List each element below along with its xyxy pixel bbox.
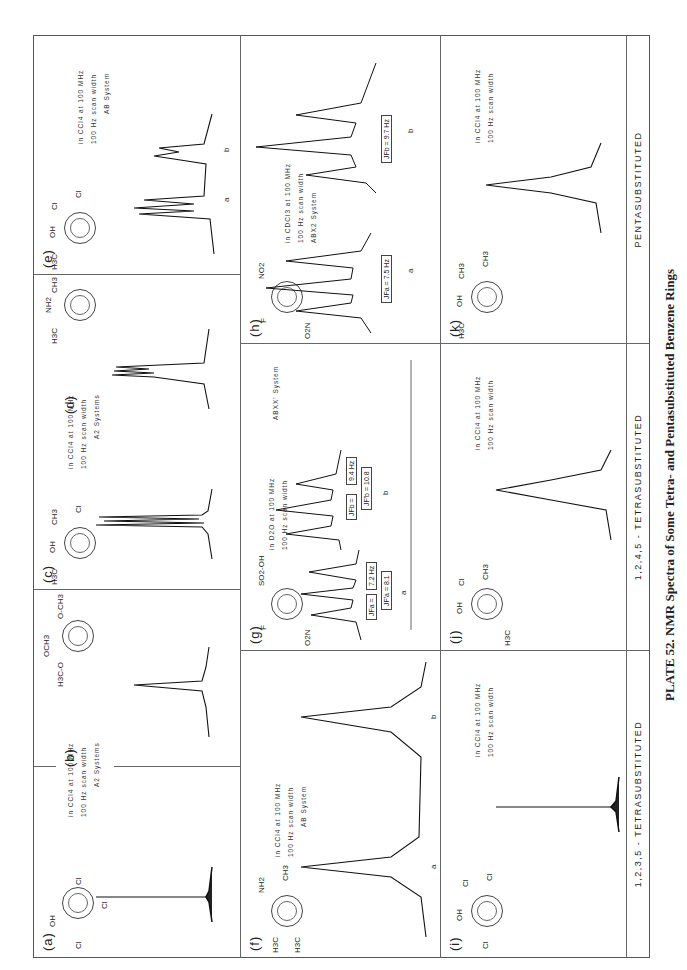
coupling-label: JFb = [346,494,357,520]
panel-k: (k) OH CH3 CH3 H3C in CCl4 at 100 MHz 10… [441,36,629,343]
spectrum-k [441,36,629,343]
peak-label-b: b [222,148,231,152]
row-middle: (f) H3C H3C NH2 CH3 in CCl4 at 100 MHz 1… [241,36,441,957]
section-label: 1,2,4,5 - TETRASUBSTITUTED [627,343,649,650]
coupling-label: JFa = 7.5 Hz [381,255,392,303]
section-label: PENTASUBSTITUTED [627,36,649,343]
plate-caption: PLATE 52. NMR Spectra of Some Tetra- and… [662,0,678,970]
spectrum-j [441,343,629,650]
row-top: (a) OH Cl Cl Cl in CCl4 at 100 MHz 100 H… [34,36,241,957]
condition-line: in CCl4 at 100 MHz [471,683,484,757]
plate-page: (a) OH Cl Cl Cl in CCl4 at 100 MHz 100 H… [0,0,687,970]
conditions-i: in CCl4 at 100 MHz 100 Hz scan width [471,683,497,757]
row-bottom: (i) OH Cl Cl Cl in CCl4 at 100 MHz 100 H… [441,36,629,957]
section-label: 1,2,3,5 - TETRASUBSTITUTED [627,650,649,957]
condition-line: 100 Hz scan width [484,376,497,450]
peak-label-a: a [429,865,438,869]
panel-e: (e) H3C OH Cl Cl in CCl4 at 100 MHz 100 … [34,36,240,274]
condition-line: in CCl4 at 100 MHz [471,376,484,450]
panel-g: (g) F SO2-OH O2N in D2O at 100 MHz 100 H… [241,343,440,650]
condition-line: in CCl4 at 100 MHz [471,69,484,143]
conditions-j: in CCl4 at 100 MHz 100 Hz scan width [471,376,497,450]
coupling-label: JFa = [366,594,377,620]
condition-line: 100 Hz scan width [484,683,497,757]
panel-cd: (c) H3C OH CH3 Cl in CCl4 at 100 MHz 100… [34,274,240,589]
spectrum-h [241,36,441,343]
peak-label-b: b [429,715,438,719]
peak-label-a: a [399,591,408,595]
divider [34,766,56,767]
spectrum-i [441,650,629,957]
coupling-label: JF'b = 10.8 [361,467,372,510]
panel-ab: (a) OH Cl Cl Cl in CCl4 at 100 MHz 100 H… [34,589,240,957]
coupling-label: JFb = 9.7 Hz [381,115,392,163]
coupling-label: JF'a = 8.1 [381,571,392,610]
peak-label-b: b [406,129,415,133]
panel-j: (j) OH Cl CH3 H3C in CCl4 at 100 MHz 100… [441,343,629,650]
panel-f: (f) H3C H3C NH2 CH3 in CCl4 at 100 MHz 1… [241,650,440,957]
conditions-k: in CCl4 at 100 MHz 100 Hz scan width [471,69,497,143]
spectrum-f [241,650,441,957]
spectrum-e [34,36,241,274]
condition-line: 100 Hz scan width [484,69,497,143]
peak-label-a: a [222,198,231,202]
panel-h: (h) F NO2 O2N in CDCl3 at 100 MHz 100 Hz… [241,36,440,343]
panel-i: (i) OH Cl Cl Cl in CCl4 at 100 MHz 100 H… [441,650,629,957]
coupling-label: 7.2 Hz [366,562,377,590]
plate-frame: (a) OH Cl Cl Cl in CCl4 at 100 MHz 100 H… [33,35,650,958]
peak-label-a: a [406,269,415,273]
spectrum-g [241,343,441,650]
divider [114,766,241,767]
coupling-label: 9.4 Hz [346,457,357,485]
section-label-strip: 1,2,3,5 - TETRASUBSTITUTED 1,2,4,5 - TET… [626,36,649,957]
spectrum-b [34,589,241,757]
spectrum-d [34,274,241,429]
peak-label-b: b [381,491,390,495]
